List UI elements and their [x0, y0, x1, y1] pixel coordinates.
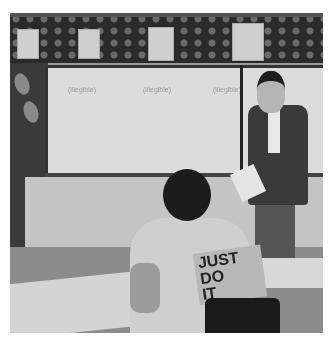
pinned-drawing: [232, 23, 264, 61]
pointer-stick: [240, 65, 243, 175]
shirt-slogan: JUST DO IT: [193, 245, 268, 306]
wall-decoration: [12, 71, 33, 96]
teacher-head: [257, 71, 285, 113]
teacher-shirt: [268, 108, 280, 153]
pinned-drawing: [148, 27, 174, 61]
student-arm: [130, 263, 160, 313]
wall-decoration: [21, 99, 42, 124]
whiteboard-text: (illegible): [213, 86, 241, 93]
student-head: [163, 169, 211, 221]
pinned-drawing: [17, 29, 39, 59]
pinned-drawing: [78, 29, 100, 59]
classroom-photo: (illegible) (illegible) (illegible) JUST…: [10, 13, 323, 333]
border-trim: [10, 13, 323, 17]
whiteboard-text: (illegible): [143, 86, 171, 93]
whiteboard-text: (illegible): [68, 86, 96, 93]
chair: [205, 298, 280, 333]
